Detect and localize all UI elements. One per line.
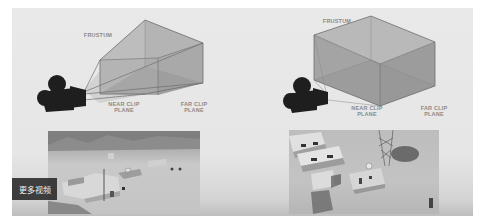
video-frame[interactable]: FRUSTUM NEAR CLIP PLANE FAR CLIP PLANE F… <box>12 8 473 216</box>
far-clip-line2: PLANE <box>176 107 212 113</box>
far-clip-line2: PLANE <box>416 111 452 117</box>
camera-icon <box>37 75 86 112</box>
orthographic-scene-image <box>289 130 439 214</box>
near-clip-line2: PLANE <box>347 111 387 117</box>
far-clip-label: FAR CLIP PLANE <box>416 105 452 117</box>
near-clip-label: NEAR CLIP PLANE <box>347 105 387 117</box>
far-clip-label: FAR CLIP PLANE <box>176 101 212 113</box>
more-videos-button[interactable]: 更多视频 <box>12 178 57 200</box>
near-clip-label: NEAR CLIP PLANE <box>104 101 144 113</box>
frustum-label: FRUSTUM <box>78 32 118 38</box>
frustum-label: FRUSTUM <box>317 18 357 24</box>
near-clip-line2: PLANE <box>104 107 144 113</box>
orthographic-frustum <box>314 16 435 106</box>
perspective-scene-image <box>48 131 200 214</box>
